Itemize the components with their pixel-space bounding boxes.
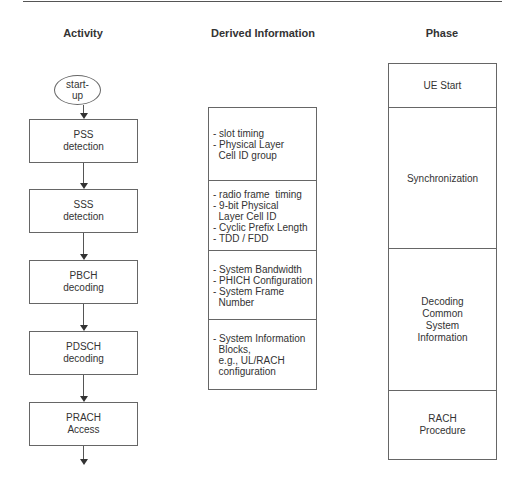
connector — [83, 375, 84, 396]
step-sss-detection: SSS detection — [29, 189, 138, 233]
top-rule — [23, 1, 502, 2]
step-pss-detection: PSS detection — [29, 119, 138, 163]
step-pbch-decoding: PBCH decoding — [29, 260, 138, 304]
phase-synchronization: Synchronization — [389, 108, 496, 249]
connector — [83, 105, 84, 113]
start-up-node: start- up — [54, 75, 101, 105]
header-phase: Phase — [372, 27, 512, 39]
header-derived-information: Derived Information — [193, 27, 333, 39]
connector — [83, 233, 84, 254]
step-prach-access: PRACH Access — [29, 402, 138, 446]
derived-sync-slot: - slot timing - Physical Layer Cell ID g… — [209, 108, 316, 181]
step-pdsch-decoding: PDSCH decoding — [29, 331, 138, 375]
arrow-down-icon — [80, 459, 88, 465]
phase-rach-procedure: RACH Procedure — [389, 391, 496, 459]
connector — [83, 163, 84, 183]
phase-decoding-common-system-information: Decoding Common System Information — [389, 249, 496, 391]
header-activity: Activity — [13, 27, 153, 39]
derived-mib: - System Bandwidth - PHICH Configuration… — [209, 251, 316, 320]
connector — [83, 446, 84, 459]
derived-sync-frame: - radio frame timing - 9-bit Physical La… — [209, 181, 316, 251]
derived-information-box: - slot timing - Physical Layer Cell ID g… — [208, 107, 317, 390]
derived-sib: - System Information Blocks, e.g., UL/RA… — [209, 320, 316, 389]
connector — [83, 304, 84, 325]
phase-box: UE Start Synchronization Decoding Common… — [388, 63, 497, 460]
phase-ue-start: UE Start — [389, 64, 496, 108]
